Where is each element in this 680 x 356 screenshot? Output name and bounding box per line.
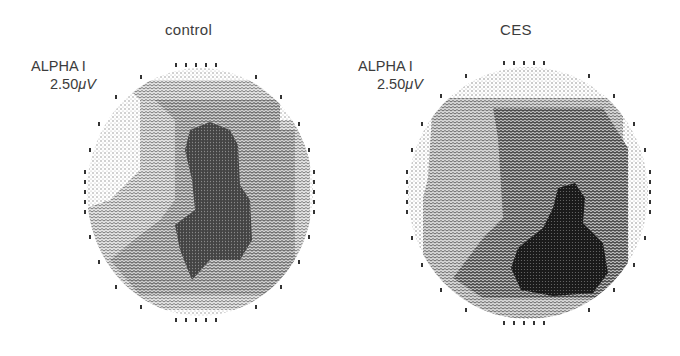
map-title: control bbox=[165, 21, 212, 38]
topographic-map-control bbox=[80, 60, 320, 325]
topographic-map-ces bbox=[403, 58, 658, 328]
scale-value: 2.50 bbox=[377, 76, 405, 92]
topomap-panel-control: control ALPHA I 2.50μV bbox=[0, 0, 340, 356]
map-title: CES bbox=[500, 21, 532, 38]
topomap-panel-ces: CES ALPHA I 2.50μV bbox=[330, 0, 680, 356]
band-name: ALPHA I bbox=[31, 58, 86, 74]
scale-value: 2.50 bbox=[50, 76, 78, 92]
map-fill bbox=[403, 58, 658, 328]
